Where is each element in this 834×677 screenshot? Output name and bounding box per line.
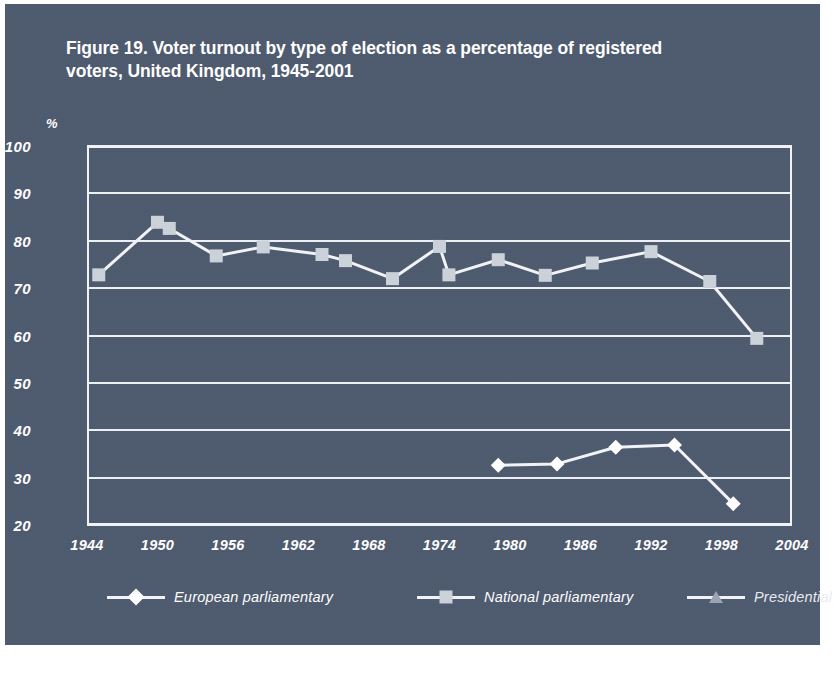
data-point-marker [608,440,623,455]
data-point-marker [339,254,352,267]
x-tick-label-1980: 1980 [493,537,526,553]
x-tick-label-1974: 1974 [423,537,456,553]
y-tick-label-80: 80 [0,232,31,249]
data-point-marker [210,249,223,262]
legend-swatch-diamond-icon [107,589,165,605]
legend-label: Presidential [754,589,832,605]
legend-entry-national-parliamentary[interactable]: National parliamentary [417,582,633,612]
legend-entry-presidential[interactable]: Presidential [687,582,832,612]
data-point-marker [539,269,552,282]
data-point-marker [492,253,505,266]
diamond-marker-icon [128,589,145,606]
y-tick-label-90: 90 [0,185,31,202]
legend-swatch-square-icon [417,589,475,605]
series-national-parliamentary [92,216,763,345]
data-point-marker [433,240,446,253]
square-marker-icon [440,591,453,604]
data-point-marker [257,240,270,253]
x-tick-label-2004: 2004 [775,537,808,553]
y-tick-label-60: 60 [0,327,31,344]
legend-entry-european-parliamentary[interactable]: European parliamentary [107,582,333,612]
data-point-marker [645,245,658,258]
data-point-marker [386,272,399,285]
data-point-marker [586,257,599,270]
plot-area [87,146,792,525]
x-tick-label-1944: 1944 [70,537,103,553]
data-series-layer [87,146,792,525]
y-tick-label-50: 50 [0,374,31,391]
series-line [99,222,757,338]
legend-swatch-triangle-icon [687,589,745,605]
x-tick-label-1998: 1998 [705,537,738,553]
chart-title: Figure 19. Voter turnout by type of elec… [66,37,706,83]
y-tick-label-100: 100 [0,138,31,155]
data-point-marker [750,332,763,345]
x-tick-label-1962: 1962 [282,537,315,553]
x-tick-label-1950: 1950 [141,537,174,553]
y-tick-label-20: 20 [0,517,31,534]
data-point-marker [703,275,716,288]
y-tick-label-70: 70 [0,280,31,297]
y-axis-unit-label: % [46,116,58,131]
data-point-marker [442,268,455,281]
legend-label: European parliamentary [174,589,333,605]
x-tick-label-1992: 1992 [634,537,667,553]
x-tick-label-1956: 1956 [211,537,244,553]
figure-panel: Figure 19. Voter turnout by type of elec… [5,4,820,645]
chart-legend: European parliamentaryNational parliamen… [87,582,792,612]
data-point-marker [92,268,105,281]
series-european-parliamentary [491,437,741,511]
x-tick-label-1968: 1968 [352,537,385,553]
y-tick-label-30: 30 [0,469,31,486]
triangle-marker-icon [709,591,723,603]
data-point-marker [163,222,176,235]
data-point-marker [151,216,164,229]
data-point-marker [316,248,329,261]
x-tick-label-1986: 1986 [564,537,597,553]
legend-label: National parliamentary [484,589,633,605]
data-point-marker [550,456,565,471]
y-tick-label-40: 40 [0,422,31,439]
data-point-marker [491,458,506,473]
